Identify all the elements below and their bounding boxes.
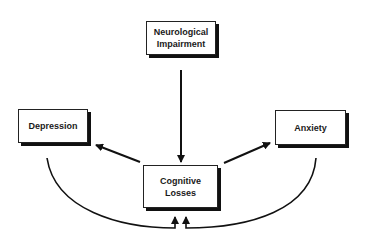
node-label: Anxiety [294,122,327,134]
node-label: Impairment [154,38,209,50]
node-cognitive-losses: Cognitive Losses [143,165,218,208]
node-anxiety: Anxiety [275,110,346,145]
node-label: Neurological [154,26,209,38]
node-neurological-impairment: Neurological Impairment [146,21,216,55]
node-label: Losses [160,187,201,199]
arrow-cognitive-to-anxiety [224,143,270,163]
node-label: Depression [28,120,77,132]
arrow-cognitive-to-depression [96,145,140,162]
node-label: Cognitive [160,175,201,187]
node-depression: Depression [18,109,88,143]
